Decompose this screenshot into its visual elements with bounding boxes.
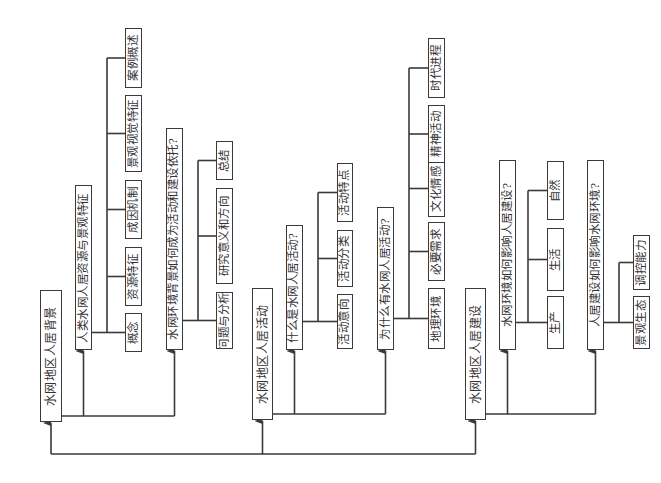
leaf-box-problem-analysis: 问题与分析 — [216, 292, 233, 349]
leaf-box-formation-mechanism: 成因机制 — [125, 180, 142, 239]
node-label: 生活 — [550, 248, 562, 271]
node-label: 调控能力 — [636, 240, 648, 286]
root-box-residential-background: 水网地区人居背景 — [40, 290, 62, 422]
node-label: 必要需求 — [431, 229, 443, 275]
leaf-box-cultural-emotion: 文化情感 — [428, 160, 445, 217]
leaf-box-case-overview: 案例概述 — [125, 28, 142, 88]
leaf-box-spiritual-activity: 精神活动 — [428, 105, 445, 163]
node-label: 活动分类 — [339, 236, 351, 282]
node-label: 文化情感 — [431, 166, 443, 212]
leaf-box-landscape-ecology: 景观生态 — [633, 296, 650, 349]
root-box-residential-activity: 水网地区人居活动 — [252, 288, 273, 420]
node-label: 水网地区人居活动 — [257, 304, 269, 404]
leaf-box-era-progress: 时代进程 — [428, 38, 445, 98]
node-label: 人类水网人居资源与景观特征 — [78, 193, 90, 343]
node-label: 自然 — [550, 179, 562, 202]
node-label: 成因机制 — [128, 187, 140, 233]
node-label: 地理环境 — [431, 296, 443, 342]
node-label: 精神活动 — [431, 111, 443, 157]
leaf-box-summary: 总结 — [216, 141, 233, 180]
branch-box-environment-affects-construction: 水网环境如何影响人居建设? — [499, 160, 516, 350]
leaf-box-resource-features: 资源特征 — [125, 247, 142, 306]
node-label: 什么是水网人居活动? — [289, 232, 301, 342]
diagram-canvas: 水网地区人居背景 人类水网人居资源与景观特征 概念 资源特征 成因机制 景观视觉… — [0, 0, 661, 483]
leaf-box-activity-features: 活动特点 — [337, 163, 353, 222]
leaf-box-necessary-needs: 必要需求 — [428, 222, 445, 281]
branch-box-construction-affects-environment: 人居建设如何影响水网环境? — [587, 160, 604, 350]
node-label: 案例概述 — [128, 35, 140, 81]
node-label: 景观生态 — [636, 300, 648, 346]
leaf-box-activity-classification: 活动分类 — [337, 230, 353, 287]
leaf-box-concept: 概念 — [125, 313, 142, 352]
branch-box-resources-landscape: 人类水网人居资源与景观特征 — [75, 185, 92, 350]
root-box-residential-construction: 水网地区人居建设 — [465, 288, 486, 420]
branch-box-environment-basis: 水网环境背景如何成为活动和建设依托? — [166, 128, 183, 350]
leaf-box-production: 生产 — [547, 296, 564, 349]
leaf-box-nature: 自然 — [547, 161, 564, 220]
leaf-box-visual-features: 景观视觉特征 — [125, 95, 142, 172]
node-label: 人居建设如何影响水网环境? — [590, 183, 602, 328]
node-label: 水网地区人居背景 — [45, 306, 57, 406]
node-label: 为什么有水网人居活动? — [380, 218, 392, 340]
node-label: 水网地区人居建设 — [470, 304, 482, 404]
branch-box-why-activity: 为什么有水网人居活动? — [377, 207, 394, 350]
node-label: 资源特征 — [128, 254, 140, 300]
node-label: 活动特点 — [339, 170, 351, 216]
node-label: 概念 — [128, 321, 140, 344]
node-label: 水网环境背景如何成为活动和建设依托? — [169, 138, 181, 340]
leaf-box-living: 生活 — [547, 228, 564, 291]
node-label: 活动意向 — [339, 299, 351, 345]
node-label: 水网环境如何影响人居建设? — [502, 183, 514, 328]
node-label: 问题与分析 — [219, 292, 231, 349]
node-label: 生产 — [550, 311, 562, 334]
node-label: 研究意义和方向 — [219, 196, 231, 277]
node-label: 总结 — [219, 149, 231, 172]
node-label: 景观视觉特征 — [128, 99, 140, 168]
node-label: 时代进程 — [431, 45, 443, 91]
branch-box-what-is-activity: 什么是水网人居活动? — [286, 225, 303, 350]
leaf-box-regulation-capacity: 调控能力 — [633, 235, 650, 290]
leaf-box-significance-direction: 研究意义和方向 — [216, 188, 233, 284]
leaf-box-geography: 地理环境 — [428, 288, 445, 349]
leaf-box-activity-intent: 活动意向 — [337, 294, 353, 349]
